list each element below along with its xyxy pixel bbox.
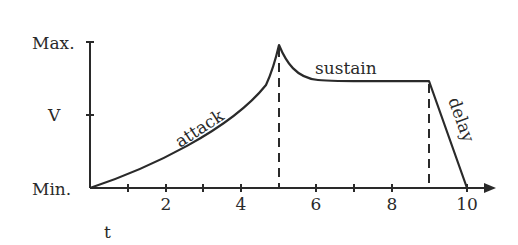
x-tick-label-6: 6: [311, 194, 322, 214]
x-tick-label-8: 8: [387, 194, 398, 214]
x-tick-label-10: 10: [456, 194, 478, 214]
diagram-canvas: Max. V Min. 2 4 6 8 10 t attack sustain …: [0, 0, 518, 245]
x-tick-label-4: 4: [236, 194, 247, 214]
y-label-v: V: [47, 105, 61, 125]
y-label-min: Min.: [32, 179, 71, 199]
x-axis-arrow-icon: [484, 183, 496, 193]
x-tick-label-2: 2: [161, 194, 172, 214]
y-label-max: Max.: [32, 33, 75, 53]
segment-label-sustain: sustain: [315, 58, 377, 78]
x-axis-label: t: [104, 222, 111, 242]
envelope-diagram: Max. V Min. 2 4 6 8 10 t attack sustain …: [0, 0, 518, 245]
segment-label-attack: attack: [171, 105, 228, 151]
